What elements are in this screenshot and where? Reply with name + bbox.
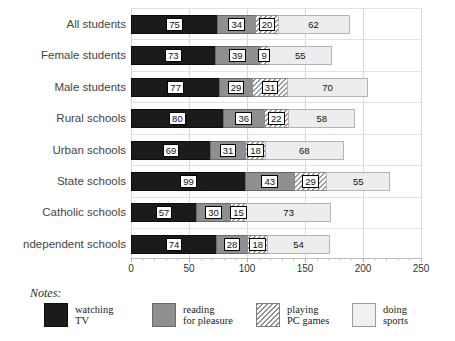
stacked-bar[interactable]: 57301573 xyxy=(131,203,331,222)
bar-segment-tv[interactable]: 74 xyxy=(131,235,217,254)
bar-segment-value: 77 xyxy=(167,81,184,94)
bar-segment-read[interactable]: 34 xyxy=(217,15,256,34)
gridline-horizontal xyxy=(131,134,421,135)
stacked-bar[interactable]: 75342062 xyxy=(131,15,350,34)
bar-segment-sports[interactable]: 73 xyxy=(246,203,331,222)
gridline-horizontal xyxy=(131,8,421,9)
bar-segment-games[interactable]: 31 xyxy=(252,78,288,97)
bar-segment-read[interactable]: 30 xyxy=(196,203,231,222)
stacked-bar[interactable]: 7339955 xyxy=(131,46,332,65)
legend-label-line1: watching xyxy=(75,304,114,315)
bar-segment-tv[interactable]: 77 xyxy=(131,78,220,97)
bar-segment-value: 73 xyxy=(165,49,182,62)
legend-item-games[interactable]: playingPC games xyxy=(256,303,329,327)
x-axis-line xyxy=(131,258,422,259)
bar-segment-sports[interactable]: 55 xyxy=(268,46,332,65)
stacked-bar[interactable]: 80362258 xyxy=(131,109,355,128)
bar-segment-value: 57 xyxy=(156,206,173,219)
bar-segment-tv[interactable]: 75 xyxy=(131,15,218,34)
x-axis-minor-tick xyxy=(166,258,167,261)
category-label: Male students xyxy=(0,81,126,93)
bar-segment-sports[interactable]: 55 xyxy=(326,172,390,191)
x-axis-minor-tick xyxy=(386,258,387,261)
bar-segment-value: 43 xyxy=(261,175,278,188)
x-axis-minor-tick xyxy=(224,258,225,261)
bar-segment-value: 18 xyxy=(249,238,266,251)
legend-label-line2: PC games xyxy=(287,315,329,326)
bar-segment-tv[interactable]: 57 xyxy=(131,203,197,222)
category-label: Rural schools xyxy=(0,112,126,124)
bar-segment-tv[interactable]: 80 xyxy=(131,109,224,128)
x-axis-tick xyxy=(189,258,190,262)
bar-segment-tv[interactable]: 69 xyxy=(131,141,211,160)
gridline-horizontal xyxy=(131,165,421,166)
x-axis-minor-tick xyxy=(398,258,399,261)
legend-item-read[interactable]: readingfor pleasure xyxy=(152,303,233,327)
legend-label-line1: reading xyxy=(183,304,233,315)
bar-segment-sports[interactable]: 58 xyxy=(288,109,355,128)
category-label: Female students xyxy=(0,49,126,61)
bar-segment-tv[interactable]: 99 xyxy=(131,172,246,191)
bar-segment-value: 18 xyxy=(247,144,264,157)
bar-segment-value: 39 xyxy=(229,49,246,62)
x-axis-minor-tick xyxy=(328,258,329,261)
legend-swatch-sports-icon xyxy=(352,303,376,327)
x-axis-tick-label: 100 xyxy=(239,263,256,274)
bar-segment-games[interactable]: 18 xyxy=(247,235,268,254)
bar-segment-read[interactable]: 39 xyxy=(215,46,260,65)
bar-segment-games[interactable]: 18 xyxy=(245,141,266,160)
bar-segment-games[interactable]: 15 xyxy=(230,203,247,222)
legend-swatch-games-icon xyxy=(256,303,280,327)
x-axis-minor-tick xyxy=(154,258,155,261)
legend-label-line2: TV xyxy=(75,315,114,326)
stacked-bar[interactable]: 99432955 xyxy=(131,172,390,191)
x-axis-minor-tick xyxy=(375,258,376,261)
x-axis-tick-label: 50 xyxy=(183,263,194,274)
bar-segment-games[interactable]: 20 xyxy=(255,15,278,34)
bar-segment-value: 29 xyxy=(302,175,319,188)
bar-segment-games[interactable]: 29 xyxy=(294,172,328,191)
bar-segment-value: 22 xyxy=(268,112,285,125)
bar-segment-value: 69 xyxy=(163,144,180,157)
x-axis-minor-tick xyxy=(212,258,213,261)
x-axis-tick xyxy=(131,258,132,262)
legend-label: doingsports xyxy=(383,304,408,326)
x-axis-minor-tick xyxy=(409,258,410,261)
gridline-horizontal xyxy=(131,102,421,103)
category-label: All students xyxy=(0,18,126,30)
bar-segment-read[interactable]: 29 xyxy=(219,78,253,97)
gridline-horizontal xyxy=(131,71,421,72)
bar-segment-games[interactable]: 22 xyxy=(264,109,290,128)
legend-label: readingfor pleasure xyxy=(183,304,233,326)
bar-segment-tv[interactable]: 73 xyxy=(131,46,216,65)
x-axis-minor-tick xyxy=(351,258,352,261)
bar-segment-value: 34 xyxy=(228,18,245,31)
legend-item-sports[interactable]: doingsports xyxy=(352,303,408,327)
x-axis-minor-tick xyxy=(201,258,202,261)
bar-segment-read[interactable]: 28 xyxy=(216,235,248,254)
x-axis-minor-tick xyxy=(235,258,236,261)
bar-segment-sports[interactable]: 70 xyxy=(287,78,368,97)
legend-label-line2: sports xyxy=(383,315,408,326)
stacked-bar[interactable]: 69311868 xyxy=(131,141,344,160)
category-label: Urban schools xyxy=(0,144,126,156)
legend-label-line1: doing xyxy=(383,304,408,315)
x-axis-minor-tick xyxy=(143,258,144,261)
bar-segment-read[interactable]: 31 xyxy=(210,141,246,160)
legend-swatch-read-icon xyxy=(152,303,176,327)
bar-segment-sports[interactable]: 68 xyxy=(265,141,344,160)
bar-segment-read[interactable]: 36 xyxy=(223,109,265,128)
bar-segment-sports[interactable]: 62 xyxy=(278,15,350,34)
category-label: State schools xyxy=(0,175,126,187)
legend-item-tv[interactable]: watchingTV xyxy=(44,303,114,327)
stacked-bar[interactable]: 77293170 xyxy=(131,78,368,97)
bar-segment-value: 73 xyxy=(283,207,294,218)
chart-legend: watchingTVreadingfor pleasureplayingPC g… xyxy=(44,303,444,337)
stacked-bar[interactable]: 74281854 xyxy=(131,235,330,254)
bar-segment-value: 99 xyxy=(180,175,197,188)
bar-segment-value: 75 xyxy=(166,18,183,31)
bar-segment-value: 29 xyxy=(228,81,245,94)
bar-segment-read[interactable]: 43 xyxy=(245,172,295,191)
bar-segment-sports[interactable]: 54 xyxy=(267,235,330,254)
x-axis-minor-tick xyxy=(293,258,294,261)
